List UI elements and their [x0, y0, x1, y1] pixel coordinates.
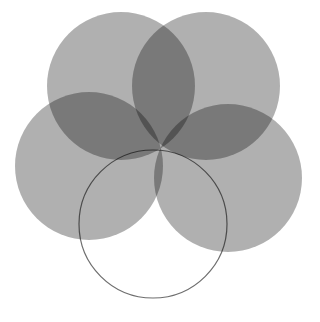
- circle-right: [154, 104, 302, 252]
- overlapping-circles-diagram: [0, 0, 320, 322]
- circle-left: [15, 92, 163, 240]
